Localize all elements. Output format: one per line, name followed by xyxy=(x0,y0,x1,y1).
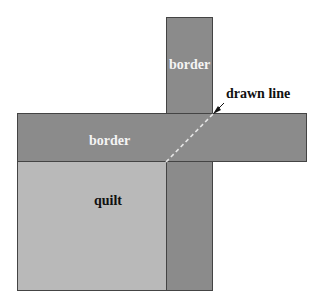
drawn-line-label: drawn line xyxy=(226,86,290,102)
horizontal-border-label: border xyxy=(89,133,130,149)
dashed-drawn-line xyxy=(166,114,213,162)
quilt-label: quilt xyxy=(94,193,122,209)
vertical-border-label: border xyxy=(169,57,210,73)
diagram-overlay xyxy=(0,0,321,296)
